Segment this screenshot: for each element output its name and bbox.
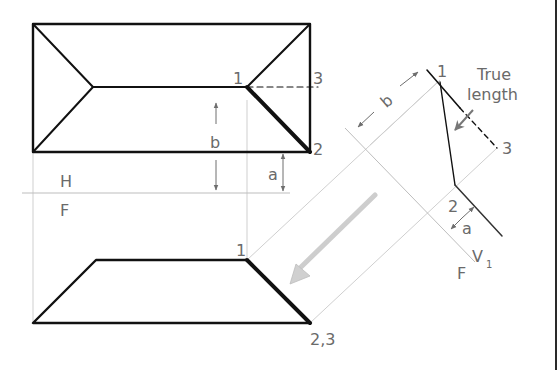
true-length-pointer	[455, 110, 473, 130]
label-fold-f-aux: F	[457, 264, 466, 283]
label-aux-a: a	[462, 219, 472, 238]
label-aux-1: 1	[437, 62, 447, 81]
label-fold-h: H	[60, 172, 72, 191]
top-view	[33, 24, 318, 152]
label-aux-b: b	[377, 90, 397, 111]
label-aux-2: 2	[448, 197, 458, 216]
front-view	[33, 260, 310, 323]
aux-witness-line	[370, 80, 440, 145]
projector-lines	[33, 80, 497, 323]
label-fold-v: V	[472, 247, 483, 266]
label-top-a: a	[268, 165, 278, 184]
label-front-23: 2,3	[310, 330, 335, 349]
fold-line-fv1	[345, 128, 475, 262]
label-front-1: 1	[236, 241, 246, 260]
label-top-b: b	[210, 133, 220, 152]
label-aux-3: 3	[502, 139, 512, 158]
hip-edge-1-2-top	[247, 87, 310, 152]
label-top-1: 1	[233, 69, 243, 88]
diagram-canvas: 1 3 2 b a H F 1 2,3 1 3 2 a b True	[0, 0, 560, 370]
label-fold-v-sub: 1	[486, 259, 492, 270]
label-true: True	[476, 65, 511, 84]
label-length: length	[467, 85, 518, 104]
label-top-3: 3	[313, 69, 323, 88]
label-fold-f: F	[60, 201, 69, 220]
label-top-2: 2	[313, 140, 323, 159]
